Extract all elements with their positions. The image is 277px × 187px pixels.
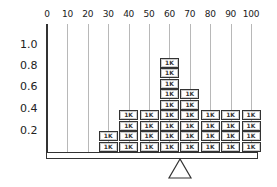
fulcrum-triangle-icon — [0, 0, 277, 187]
balance-diagram: 01020304050607080901001.00.80.60.40.21K1… — [0, 0, 277, 187]
